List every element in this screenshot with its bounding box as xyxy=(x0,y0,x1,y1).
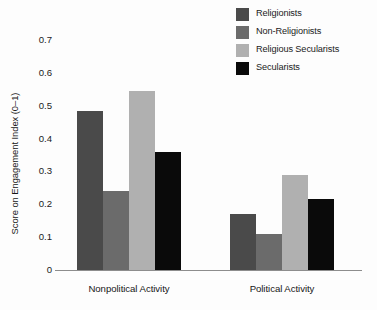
bar-nonpolitical-activity-secularists xyxy=(155,152,181,270)
bar-chart: Religionists Non-Religionists Religious … xyxy=(0,0,377,310)
y-tick-label: 0.3 xyxy=(18,166,52,176)
y-tick-label: 0.6 xyxy=(18,68,52,78)
plot-area xyxy=(55,40,365,270)
bar-nonpolitical-activity-religious-secularists xyxy=(129,91,155,270)
y-axis-ticks: 0.70.60.50.40.30.20.10 xyxy=(14,0,52,310)
y-tick-label: 0.5 xyxy=(18,101,52,111)
x-tick-label: Political Activity xyxy=(212,283,352,294)
bar-political-activity-religious-secularists xyxy=(282,175,308,270)
y-tick-label: 0 xyxy=(18,265,52,275)
x-axis-line xyxy=(55,270,362,271)
legend-swatch-non-religionists xyxy=(236,26,249,39)
y-tick-label: 0.7 xyxy=(18,35,52,45)
legend-label-non-religionists: Non-Religionists xyxy=(256,27,321,36)
legend-label-religionists: Religionists xyxy=(256,9,302,18)
bar-nonpolitical-activity-non-religionists xyxy=(103,191,129,270)
bar-political-activity-secularists xyxy=(308,199,334,270)
bar-political-activity-religionists xyxy=(230,214,256,270)
y-tick-label: 0.1 xyxy=(18,232,52,242)
y-tick-label: 0.2 xyxy=(18,199,52,209)
y-tick-label: 0.4 xyxy=(18,134,52,144)
bar-nonpolitical-activity-religionists xyxy=(77,111,103,270)
legend-item-religionists: Religionists xyxy=(236,5,376,23)
legend-swatch-religionists xyxy=(236,8,249,21)
bar-political-activity-non-religionists xyxy=(256,234,282,270)
legend-item-non-religionists: Non-Religionists xyxy=(236,23,376,41)
x-tick-label: Nonpolitical Activity xyxy=(59,283,199,294)
